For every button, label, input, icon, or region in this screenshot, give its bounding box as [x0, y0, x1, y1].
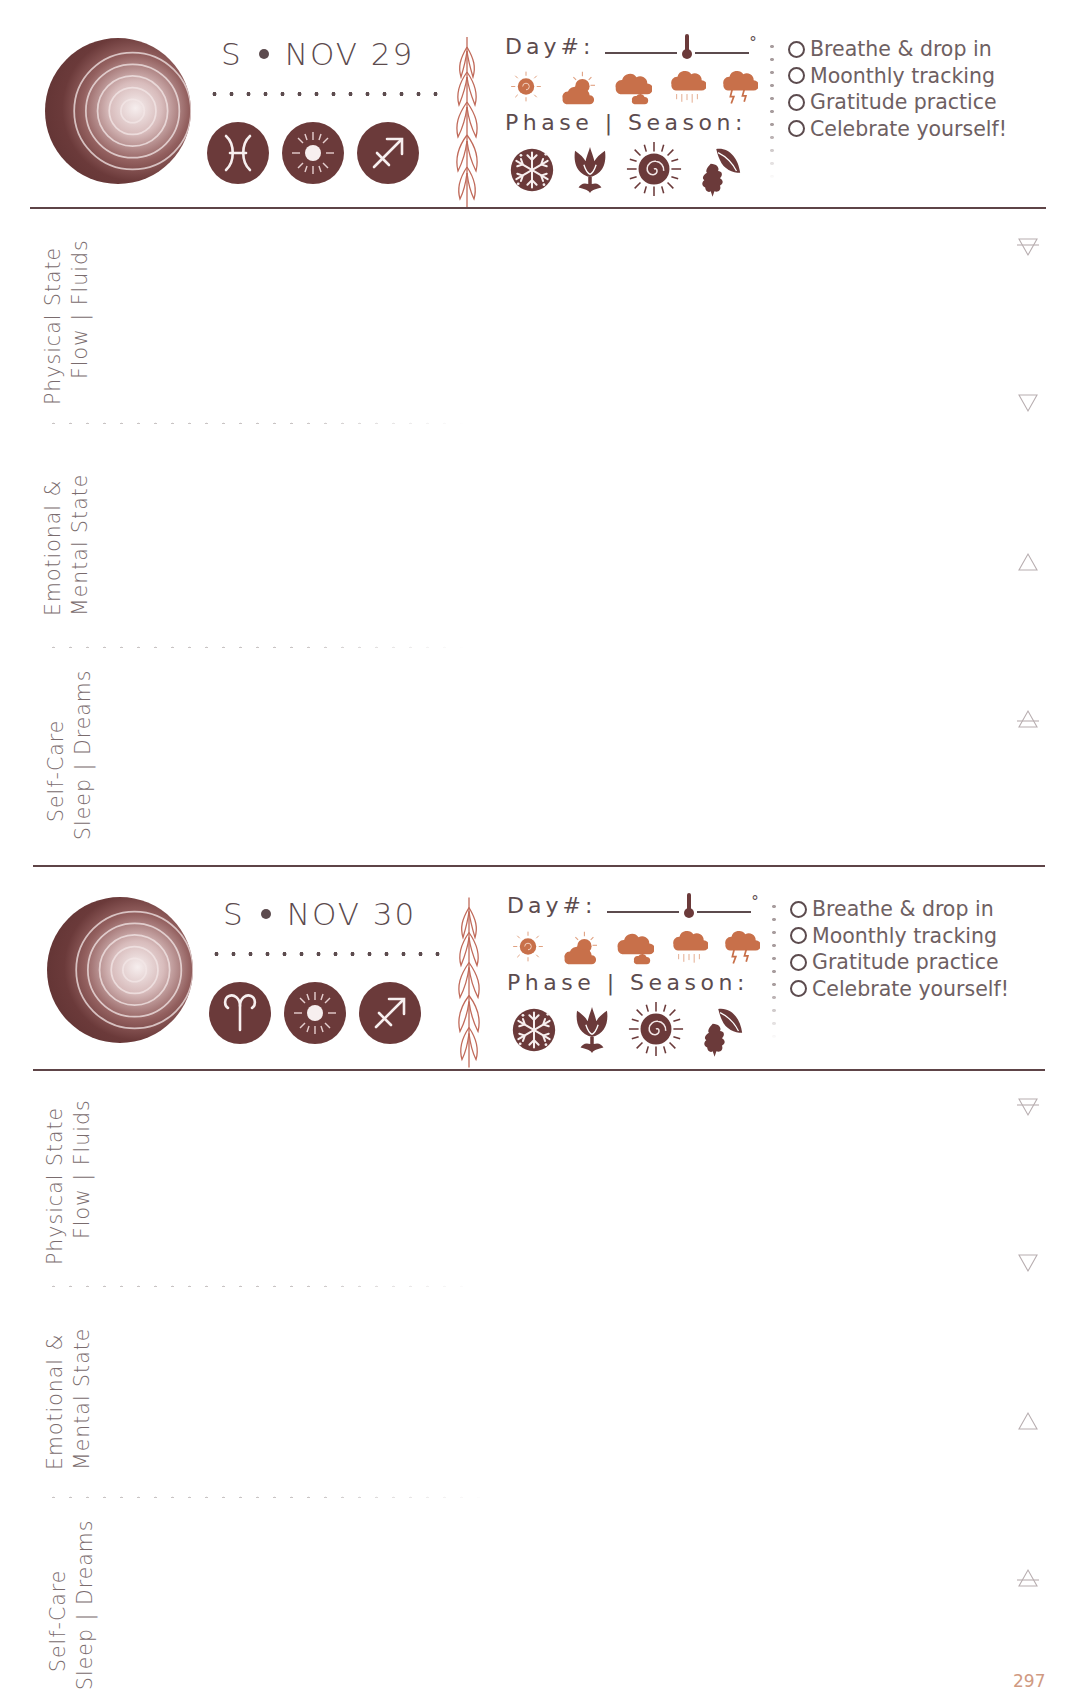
sunny-icon[interactable] [510, 930, 546, 963]
checklist-item[interactable]: Gratitude practice [788, 89, 1007, 116]
partly-cloudy-icon[interactable] [559, 930, 599, 966]
pisces-icon [207, 122, 269, 184]
checkbox-circle[interactable] [788, 67, 805, 84]
cloudy-icon[interactable] [612, 70, 652, 106]
rain-icon[interactable] [670, 930, 708, 966]
page-number: 297 [1013, 1671, 1045, 1691]
day-number-blank[interactable] [605, 52, 677, 54]
weekday-initial: S [221, 36, 243, 72]
rain-icon[interactable] [668, 70, 706, 106]
sagittarius-icon [359, 982, 421, 1044]
thermometer-icon [685, 34, 689, 56]
sun-icon [284, 982, 346, 1044]
fire-symbol-icon [1017, 551, 1039, 573]
vertical-dotted-divider [772, 900, 776, 1040]
section-label-line2: Sleep | Dreams [72, 1520, 99, 1690]
section-label-selfcare: Self-Care Sleep | Dreams [43, 670, 97, 840]
storm-icon[interactable] [720, 70, 758, 106]
checklist-label: Celebrate yourself! [812, 976, 1009, 1003]
summer-sun-icon[interactable] [627, 1000, 685, 1058]
day-number-field[interactable]: Day#: ° [505, 34, 761, 59]
checklist-label: Gratitude practice [812, 949, 999, 976]
sprig-divider-icon [452, 36, 482, 208]
section-label-line1: Emotional & [40, 474, 67, 616]
checklist-item[interactable]: Celebrate yourself! [788, 116, 1007, 143]
section-label-line1: Self-Care [43, 670, 70, 840]
checkbox-circle[interactable] [790, 901, 807, 918]
partly-cloudy-icon[interactable] [557, 70, 597, 106]
autumn-leaves-icon[interactable] [698, 1005, 744, 1057]
summer-sun-icon[interactable] [625, 140, 683, 198]
weekday-initial: S [223, 896, 245, 932]
checklist-label: Moonthly tracking [812, 923, 997, 950]
checkbox-circle[interactable] [790, 954, 807, 971]
checkbox-circle[interactable] [790, 980, 807, 997]
autumn-leaves-icon[interactable] [696, 145, 742, 197]
section-label-emotional: Emotional & Mental State [42, 1328, 96, 1470]
checklist-item[interactable]: Moonthly tracking [790, 923, 1009, 950]
degree-symbol: ° [751, 893, 763, 911]
day-number-blank[interactable] [607, 911, 679, 913]
dotted-divider [208, 952, 440, 956]
aries-icon [209, 982, 271, 1044]
earth-symbol-icon [1017, 236, 1039, 258]
waning-crescent-moon-icon [45, 38, 191, 184]
winter-snowflake-icon[interactable] [511, 1007, 557, 1053]
day-number-field[interactable]: Day#: ° [507, 893, 763, 918]
sunny-icon[interactable] [508, 70, 544, 103]
checkbox-circle[interactable] [790, 927, 807, 944]
checkbox-circle[interactable] [788, 120, 805, 137]
bullet-dot [259, 49, 269, 59]
section-label-line2: Flow | Fluids [67, 239, 94, 405]
spring-tulip-icon[interactable] [570, 1005, 614, 1055]
cloudy-icon[interactable] [614, 930, 654, 966]
section-label-line1: Emotional & [42, 1328, 69, 1470]
section-dotted-divider [45, 1285, 475, 1287]
checklist-item[interactable]: Celebrate yourself! [790, 976, 1009, 1003]
storm-icon[interactable] [722, 930, 760, 966]
phase-season-label: Phase | Season: [507, 970, 749, 995]
temperature-blank[interactable] [697, 911, 751, 913]
checkbox-circle[interactable] [788, 94, 805, 111]
earth-symbol-icon [1017, 1096, 1039, 1118]
sun-icon [282, 122, 344, 184]
checklist-item[interactable]: Breathe & drop in [790, 896, 1009, 923]
section-label-physical: Physical State Flow | Fluids [40, 239, 94, 405]
day-label: Day#: [505, 34, 594, 59]
section-label-emotional: Emotional & Mental State [40, 474, 94, 616]
checklist-item[interactable]: Gratitude practice [790, 949, 1009, 976]
section-label-line2: Mental State [69, 1328, 96, 1470]
section-label-line2: Sleep | Dreams [70, 670, 97, 840]
checklist-label: Celebrate yourself! [810, 116, 1007, 143]
section-label-line2: Mental State [67, 474, 94, 616]
winter-snowflake-icon[interactable] [509, 147, 555, 193]
thermometer-icon [687, 893, 691, 915]
temperature-blank[interactable] [695, 52, 749, 54]
header-divider [30, 207, 1046, 209]
checklist-label: Gratitude practice [810, 89, 997, 116]
vertical-dotted-divider [770, 40, 774, 180]
fire-symbol-icon [1017, 1410, 1039, 1432]
checklist-label: Breathe & drop in [812, 896, 994, 923]
day-divider [33, 865, 1045, 867]
date-heading: SNOV 30 [223, 896, 416, 932]
checklist-item[interactable]: Moonthly tracking [788, 63, 1007, 90]
section-label-selfcare: Self-Care Sleep | Dreams [45, 1520, 99, 1690]
section-label-physical: Physical State Flow | Fluids [42, 1099, 96, 1265]
daily-checklist: Breathe & drop in Moonthly tracking Grat… [790, 896, 1009, 1002]
bullet-dot [261, 909, 271, 919]
date-heading: SNOV 29 [221, 36, 414, 72]
date-text: NOV 30 [287, 896, 417, 932]
section-dotted-divider [45, 1496, 485, 1498]
checklist-item[interactable]: Breathe & drop in [788, 36, 1007, 63]
day-label: Day#: [507, 893, 596, 918]
section-dotted-divider [45, 422, 465, 424]
phase-season-label: Phase | Season: [505, 110, 747, 135]
section-label-line2: Flow | Fluids [69, 1099, 96, 1265]
checkbox-circle[interactable] [788, 41, 805, 58]
spring-tulip-icon[interactable] [568, 145, 612, 195]
checklist-label: Moonthly tracking [810, 63, 995, 90]
water-symbol-icon [1017, 392, 1039, 414]
waning-crescent-moon-icon [47, 897, 193, 1043]
checklist-label: Breathe & drop in [810, 36, 992, 63]
